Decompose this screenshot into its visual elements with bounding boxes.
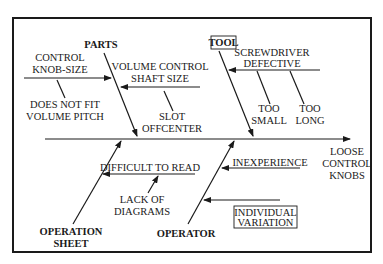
cause-control-knob-1: CONTROL bbox=[35, 52, 85, 63]
sub-cause-does-not-fit-2: VOLUME PITCH bbox=[26, 111, 104, 122]
too-small-link bbox=[257, 71, 270, 104]
sub-cause-slot-2: OFFCENTER bbox=[142, 123, 202, 134]
category-operation-sheet-2: SHEET bbox=[53, 238, 88, 249]
cause-inexperience: INEXPERIENCE bbox=[232, 157, 307, 168]
category-operation-sheet-1: OPERATION bbox=[40, 226, 103, 237]
cause-difficult-to-read: DIFFICULT TO READ bbox=[100, 162, 200, 173]
sub-cause-does-not-fit-1: DOES NOT FIT bbox=[30, 99, 100, 110]
cause-control-knob-2: KNOB-SIZE bbox=[32, 64, 87, 75]
sub-cause-too-small-1: TOO bbox=[258, 103, 280, 114]
category-parts: PARTS bbox=[84, 39, 117, 50]
svg-text:KNOBS: KNOBS bbox=[329, 170, 365, 181]
fishbone-diagram: LOOSE CONTROL KNOBS PARTS CONTROL KNOB-S… bbox=[0, 0, 383, 264]
sub-cause-lack-of-diagrams-2: DIAGRAMS bbox=[114, 206, 170, 217]
svg-text:LOOSE: LOOSE bbox=[330, 146, 364, 157]
too-long-link bbox=[290, 71, 304, 104]
sub-cause-too-small-2: SMALL bbox=[251, 115, 287, 126]
sub-cause-too-long-2: LONG bbox=[295, 115, 325, 126]
cause-shaft-size-1: VOLUME CONTROL bbox=[111, 61, 208, 72]
category-operator: OPERATOR bbox=[157, 228, 216, 239]
cause-individual-variation-2: VARIATION bbox=[238, 217, 294, 228]
cause-screwdriver-2: DEFECTIVE bbox=[243, 58, 300, 69]
does-not-fit-link bbox=[57, 80, 65, 98]
cause-shaft-size-2: SHAFT SIZE bbox=[131, 73, 189, 84]
slot-link bbox=[164, 91, 173, 111]
effect-label: LOOSE CONTROL KNOBS bbox=[322, 146, 372, 181]
sub-cause-lack-of-diagrams-1: LACK OF bbox=[120, 194, 165, 205]
lack-of-diagrams-link bbox=[148, 176, 158, 193]
operator-bone bbox=[188, 141, 234, 224]
svg-text:CONTROL: CONTROL bbox=[322, 158, 372, 169]
cause-screwdriver-1: SCREWDRIVER bbox=[234, 47, 309, 58]
sub-cause-slot-1: SLOT bbox=[159, 111, 186, 122]
sub-cause-too-long-1: TOO bbox=[299, 103, 321, 114]
